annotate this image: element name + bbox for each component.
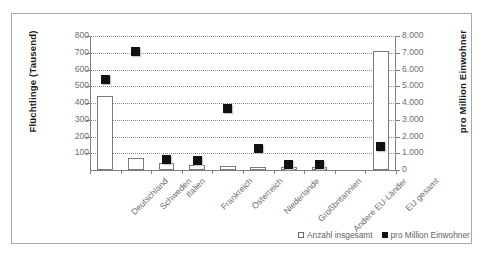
y-axis-right-tick-label: 1.000 — [402, 147, 448, 157]
marker-Deutschland — [101, 75, 110, 84]
x-tick — [396, 170, 397, 174]
bar-EU gesamt — [373, 51, 389, 170]
marker-Andere EU-Länder — [315, 160, 324, 169]
y-tick-right — [396, 53, 400, 54]
y-axis-right-tick-label: 8.000 — [402, 30, 448, 40]
chart-frame: Flüchtlinge (Tausend) pro Million Einwoh… — [11, 13, 472, 244]
y-tick-right — [396, 86, 400, 87]
legend-item-pro-million-einwohner: pro Million Einwohner — [382, 230, 470, 240]
filled-square-icon — [382, 232, 388, 238]
x-tick — [182, 170, 183, 174]
y-axis-right-tick-label: 3.000 — [402, 114, 448, 124]
x-tick — [365, 170, 366, 174]
marker-Schweden — [131, 47, 140, 56]
x-tick — [304, 170, 305, 174]
y-axis-left-tick-label: 400 — [49, 97, 89, 107]
chart-legend: Anzahl insgesamt pro Million Einwohner — [298, 230, 470, 240]
y-axis-left-tick-label: 100 — [49, 147, 89, 157]
y-axis-left-tick-label: 800 — [49, 30, 89, 40]
gridline — [90, 137, 396, 138]
y-axis-left-tick-label: 200 — [49, 131, 89, 141]
marker-Niederlande — [254, 144, 263, 153]
bar-Deutschland — [97, 96, 113, 170]
y-axis-right-tick-label: 5.000 — [402, 80, 448, 90]
x-category-label: Frankreich — [219, 176, 255, 212]
bar-Österreich — [220, 166, 236, 170]
plot-area: 100200300400500600700800 01.0002.0003.00… — [90, 36, 396, 170]
y-axis-left-tick-label: 700 — [49, 47, 89, 57]
y-axis-right-tick-label: 6.000 — [402, 64, 448, 74]
bar-Schweden — [128, 158, 144, 170]
legend-item-anzahl-insgesamt: Anzahl insgesamt — [298, 230, 373, 240]
y-axis-left-tick-label: 300 — [49, 114, 89, 124]
marker-Italien — [162, 155, 171, 164]
gridline — [90, 103, 396, 104]
y-axis-left-tick-label: 600 — [49, 64, 89, 74]
x-category-label: Niederlande — [282, 176, 322, 216]
marker-EU gesamt — [376, 142, 385, 151]
y-tick-right — [396, 137, 400, 138]
y-axis-right-tick-label: 4.000 — [402, 97, 448, 107]
x-tick — [212, 170, 213, 174]
y-axis-right-tick-label: 7.000 — [402, 47, 448, 57]
bar-Niederlande — [250, 167, 266, 170]
gridline — [90, 86, 396, 87]
y-axis-right-tick-label: 2.000 — [402, 131, 448, 141]
y-tick-right — [396, 36, 400, 37]
y-tick-right — [396, 103, 400, 104]
y-tick-right — [396, 153, 400, 154]
x-tick — [121, 170, 122, 174]
bar-Italien — [159, 163, 175, 170]
gridline — [90, 153, 396, 154]
marker-Frankreich — [193, 156, 202, 165]
y-axis-right-title: pro Million Einwohner — [457, 17, 468, 147]
y-axis-right-tick-label: 0 — [402, 164, 448, 174]
bar-Frankreich — [189, 165, 205, 170]
x-tick — [90, 170, 91, 174]
x-tick — [274, 170, 275, 174]
y-tick-right — [396, 120, 400, 121]
y-tick-right — [396, 70, 400, 71]
open-square-icon — [298, 232, 304, 238]
chart-figure: Flüchtlinge (Tausend) pro Million Einwoh… — [0, 0, 484, 260]
x-tick — [243, 170, 244, 174]
x-tick — [335, 170, 336, 174]
x-category-label: Österreich — [249, 176, 284, 211]
legend-label: Anzahl insgesamt — [307, 230, 373, 240]
gridline — [90, 70, 396, 71]
x-category-label: EU gesamt — [403, 176, 440, 213]
x-tick — [151, 170, 152, 174]
x-category-label: Großbritannien — [316, 176, 364, 224]
y-axis-left-tick-label: 500 — [49, 80, 89, 90]
gridline — [90, 120, 396, 121]
marker-Großbritannien — [284, 160, 293, 169]
plot-inner: 100200300400500600700800 01.0002.0003.00… — [90, 36, 396, 170]
legend-label: pro Million Einwohner — [391, 230, 470, 240]
gridline — [90, 36, 396, 37]
marker-Österreich — [223, 104, 232, 113]
y-axis-left-title: Flüchtlinge (Tausend) — [27, 17, 38, 147]
